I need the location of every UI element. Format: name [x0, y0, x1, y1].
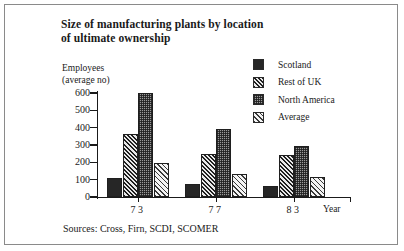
chart-title-line-1: Size of manufacturing plants by location: [61, 18, 263, 30]
bar-group-77: [185, 93, 247, 197]
y-axis-tick-label: 600: [56, 87, 90, 98]
y-axis-tick: [90, 196, 97, 197]
solid-black-swatch-icon: [253, 59, 264, 70]
y-axis-caption-line-1: Employees: [62, 62, 142, 74]
y-axis-tick-label: 400: [56, 122, 90, 133]
plot-area: [97, 93, 350, 197]
bar-rest-of-uk-73: [123, 134, 138, 197]
legend-item-rest-of-uk: Rest of UK: [253, 75, 393, 90]
x-axis-end-tick: [350, 197, 351, 202]
x-axis-tick-label-73: 73: [115, 204, 161, 215]
bar-group-73: [107, 93, 169, 197]
y-axis-tick-label: 100: [56, 174, 90, 185]
chart-title-line-2: of ultimate ownership: [61, 32, 361, 46]
y-axis-tick-label: 200: [56, 156, 90, 167]
x-axis-tick-label-83: 83: [271, 204, 317, 215]
y-axis-tick-label: 300: [56, 139, 90, 150]
chart-title: Size of manufacturing plants by location…: [61, 18, 361, 45]
x-axis-title: Year: [323, 204, 341, 214]
x-axis-tick: [294, 197, 295, 202]
bar-rest-of-uk-83: [279, 155, 294, 197]
y-axis-tick: [90, 92, 97, 93]
y-axis-tick: [90, 144, 97, 145]
y-axis-caption-line-2: (average no): [62, 74, 142, 86]
bar-scotland-83: [263, 186, 278, 197]
y-axis-tick: [90, 127, 97, 128]
y-axis-tick-label: 500: [56, 104, 90, 115]
y-axis-caption: Employees (average no): [62, 62, 142, 86]
dense-diagonal-hatch-swatch-icon: [253, 77, 264, 88]
bar-scotland-73: [107, 178, 122, 197]
y-axis-tick: [90, 162, 97, 163]
y-axis-tick-labels: 0100200300400500600: [52, 93, 90, 197]
x-axis-tick: [138, 197, 139, 202]
legend-item-scotland: Scotland: [253, 57, 393, 72]
bar-average-73: [154, 163, 169, 197]
bar-group-83: [263, 93, 325, 197]
legend-label-rest-of-uk: Rest of UK: [278, 77, 321, 87]
y-axis-tick: [90, 179, 97, 180]
bar-north-america-83: [294, 146, 309, 197]
bar-average-83: [310, 177, 325, 197]
bar-north-america-73: [138, 93, 153, 197]
bar-scotland-77: [185, 184, 200, 197]
x-axis-line: [97, 197, 351, 198]
bar-rest-of-uk-77: [201, 154, 216, 197]
x-axis-tick: [216, 197, 217, 202]
bar-average-77: [232, 174, 247, 197]
bar-north-america-77: [216, 129, 231, 197]
source-note: Sources: Cross, Firn, SCDI, SCOMER: [63, 223, 218, 234]
x-axis-tick-label-77: 77: [193, 204, 239, 215]
legend-label-scotland: Scotland: [278, 60, 311, 70]
y-axis-tick-label: 0: [56, 191, 90, 202]
y-axis-tick: [90, 110, 97, 111]
chart-frame: Size of manufacturing plants by location…: [4, 4, 398, 245]
